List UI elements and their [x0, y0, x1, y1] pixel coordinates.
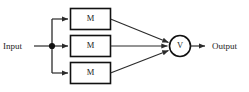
module-label-bottom: M — [87, 67, 95, 77]
diagram-canvas: M M M V Input Output — [0, 0, 249, 92]
output-label: Output — [212, 41, 238, 51]
wire-module-top-to-voter — [111, 19, 169, 43]
fan-out-junction-dot — [49, 43, 55, 49]
module-label-middle: M — [87, 40, 95, 50]
input-label: Input — [3, 41, 22, 51]
voter-label: V — [177, 40, 184, 50]
module-label-top: M — [87, 13, 95, 23]
wire-module-bottom-to-voter — [111, 51, 169, 74]
block-diagram: M M M V Input Output — [0, 0, 249, 92]
